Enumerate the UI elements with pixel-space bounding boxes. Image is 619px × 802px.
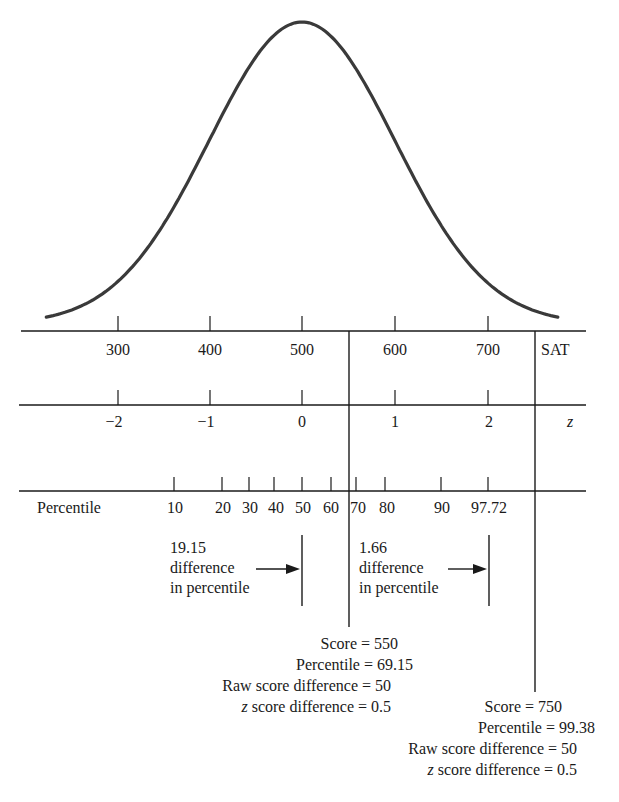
marker-550-info: Score = 550 Percentile = 69.15 Raw score…: [222, 633, 391, 717]
difference-text: difference: [170, 558, 250, 578]
percentile-axis-label: Percentile: [37, 499, 101, 517]
z-tick-label: 0: [298, 413, 306, 431]
sat-axis-label: SAT: [541, 341, 569, 359]
percentile-tick-label: 30: [242, 499, 258, 517]
z-axis-ticks: [118, 390, 488, 405]
z-diff-text: z score difference = 0.5: [408, 759, 577, 780]
percentile-tick-label: 40: [268, 499, 284, 517]
sat-tick-label: 700: [476, 341, 500, 359]
sat-tick-label: 300: [106, 341, 130, 359]
z-tick-label: 1: [391, 413, 399, 431]
sat-axis-ticks: [118, 316, 488, 331]
percentile-tick-label: 80: [379, 499, 395, 517]
sat-tick-label: 600: [383, 341, 407, 359]
difference-text: in percentile: [359, 578, 439, 598]
percentile-tick-label: 20: [215, 499, 231, 517]
z-tick-label: −2: [105, 413, 122, 431]
marker-750-info: Score = 750 Percentile = 99.38 Raw score…: [408, 696, 577, 780]
raw-diff-text: Raw score difference = 50: [408, 738, 577, 759]
percentile-text: Percentile = 69.15: [222, 654, 413, 675]
score-text: Score = 750: [408, 696, 562, 717]
percentile-tick-label: 97.72: [471, 499, 507, 517]
percentile-difference-note-right: 1.66 difference in percentile: [359, 538, 439, 598]
difference-text: in percentile: [170, 578, 250, 598]
sat-tick-label: 400: [198, 341, 222, 359]
percentile-difference-note-left: 19.15 difference in percentile: [170, 538, 250, 598]
z-tick-label: 2: [485, 413, 493, 431]
difference-value: 19.15: [170, 538, 250, 558]
score-text: Score = 550: [222, 633, 398, 654]
arrow-right-icon: [256, 564, 300, 574]
percentile-tick-label: 90: [434, 499, 450, 517]
raw-diff-text: Raw score difference = 50: [222, 675, 391, 696]
percentile-tick-label: 60: [323, 499, 339, 517]
normal-curve: [46, 22, 558, 317]
percentile-tick-label: 50: [295, 499, 311, 517]
percentile-text: Percentile = 99.38: [408, 717, 595, 738]
sat-tick-label: 500: [290, 341, 314, 359]
difference-text: difference: [359, 558, 439, 578]
percentile-axis-ticks: [174, 477, 488, 491]
z-axis-label: z: [567, 413, 573, 431]
percentile-tick-label: 10: [167, 499, 183, 517]
difference-value: 1.66: [359, 538, 439, 558]
percentile-tick-label: 70: [350, 499, 366, 517]
arrow-right-icon: [448, 564, 487, 574]
z-diff-text: z score difference = 0.5: [222, 696, 391, 717]
z-tick-label: −1: [197, 413, 214, 431]
